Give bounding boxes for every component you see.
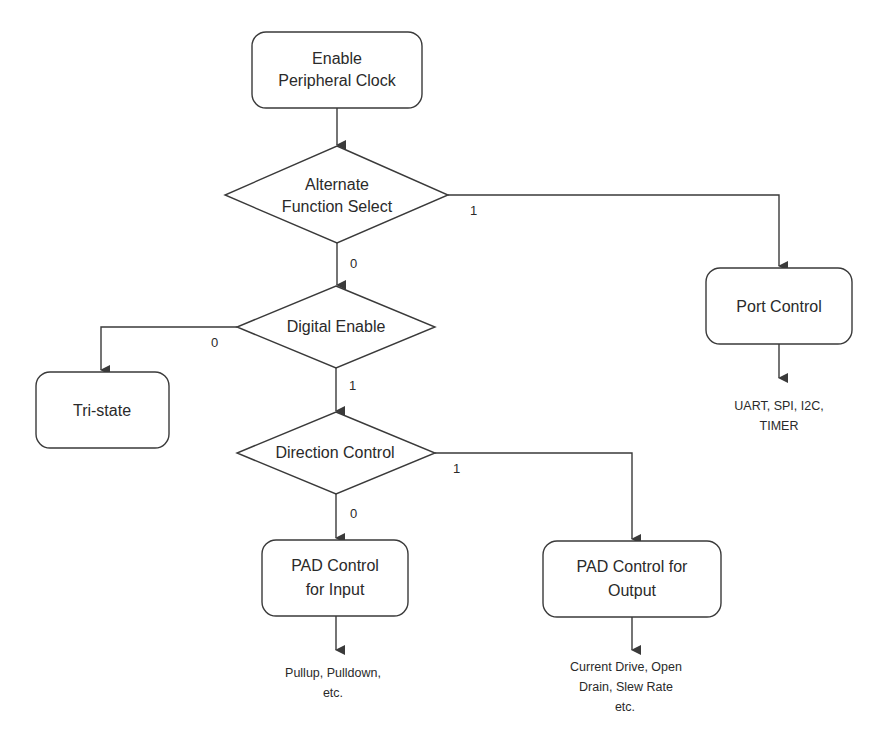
svg-text:Current Drive, Open: Current Drive, Open — [570, 660, 682, 674]
edge-label-0: 0 — [350, 256, 357, 271]
note-pad-output: Current Drive, Open Drain, Slew Rate etc… — [570, 660, 682, 714]
svg-text:TIMER: TIMER — [760, 419, 799, 433]
edge-label-1: 1 — [470, 203, 477, 218]
svg-text:Drain, Slew Rate: Drain, Slew Rate — [579, 680, 673, 694]
decision-alternate-function-select: Alternate Function Select — [225, 146, 448, 243]
svg-text:UART, SPI, I2C,: UART, SPI, I2C, — [734, 399, 823, 413]
node-label: Tri-state — [73, 402, 131, 419]
node-label: Peripheral Clock — [278, 72, 396, 89]
edge-label-0: 0 — [350, 506, 357, 521]
node-pad-control-output: PAD Control for Output — [543, 541, 721, 617]
note-port-control: UART, SPI, I2C, TIMER — [734, 399, 823, 433]
node-label: Port Control — [736, 298, 821, 315]
node-label: PAD Control — [291, 557, 379, 574]
node-label: Enable — [312, 50, 362, 67]
gpio-config-flowchart: Enable Peripheral Clock Alternate Functi… — [0, 0, 878, 742]
edge-direction-to-pad-output — [435, 453, 632, 539]
node-pad-control-input: PAD Control for Input — [262, 540, 408, 616]
node-port-control: Port Control — [706, 268, 852, 344]
decision-direction-control: Direction Control — [237, 412, 435, 494]
note-pad-input: Pullup, Pulldown, etc. — [285, 666, 381, 700]
node-label: Function Select — [282, 198, 393, 215]
svg-text:etc.: etc. — [615, 700, 635, 714]
node-tri-state: Tri-state — [36, 372, 169, 448]
node-label: Alternate — [305, 176, 369, 193]
edge-alt-func-to-port-control — [448, 195, 779, 266]
node-label: for Input — [306, 581, 365, 598]
node-label: Digital Enable — [287, 318, 386, 335]
edge-label-1: 1 — [453, 461, 460, 476]
svg-text:etc.: etc. — [323, 686, 343, 700]
decision-digital-enable: Digital Enable — [237, 286, 435, 368]
edge-label-1: 1 — [349, 378, 356, 393]
node-label: Direction Control — [275, 444, 394, 461]
edge-label-0: 0 — [211, 335, 218, 350]
node-label: Output — [608, 582, 657, 599]
svg-text:Pullup, Pulldown,: Pullup, Pulldown, — [285, 666, 381, 680]
node-label: PAD Control for — [577, 558, 689, 575]
node-enable-peripheral-clock: Enable Peripheral Clock — [252, 32, 422, 108]
